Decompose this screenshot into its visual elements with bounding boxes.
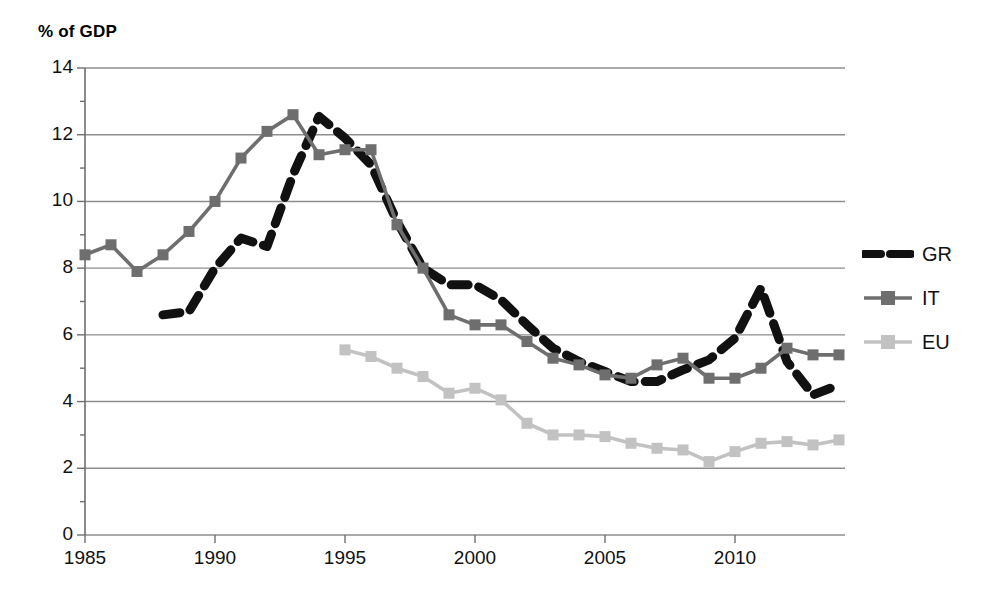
legend-label-gr: GR <box>922 244 952 264</box>
x-tick-label-2005: 2005 <box>560 547 650 569</box>
y-tick-label-8: 8 <box>27 256 73 278</box>
legend-swatch-it <box>862 287 914 309</box>
x-tick-label-2010: 2010 <box>690 547 780 569</box>
x-tick-label-1990: 1990 <box>170 547 260 569</box>
chart-container: % of GDP 02468101214 1985199019952000200… <box>0 0 995 603</box>
y-tick-label-6: 6 <box>27 323 73 345</box>
chart-title: % of GDP <box>38 22 117 42</box>
y-tick-label-0: 0 <box>27 523 73 545</box>
x-tick-label-1995: 1995 <box>300 547 390 569</box>
chart-legend: GR IT EU <box>862 232 992 364</box>
legend-label-eu: EU <box>922 332 950 352</box>
legend-label-it: IT <box>922 288 940 308</box>
y-tick-label-4: 4 <box>27 390 73 412</box>
x-tick-label-1985: 1985 <box>40 547 130 569</box>
axis-lines <box>77 68 735 543</box>
chart-plot-area <box>0 0 995 603</box>
y-tick-label-14: 14 <box>27 56 73 78</box>
y-tick-label-12: 12 <box>27 123 73 145</box>
legend-item-eu[interactable]: EU <box>862 320 992 364</box>
series-layer <box>80 109 845 467</box>
y-tick-label-10: 10 <box>27 189 73 211</box>
legend-item-it[interactable]: IT <box>862 276 992 320</box>
legend-item-gr[interactable]: GR <box>862 232 992 276</box>
legend-swatch-eu <box>862 331 914 353</box>
y-tick-label-2: 2 <box>27 456 73 478</box>
legend-swatch-gr <box>862 243 914 265</box>
x-tick-label-2000: 2000 <box>430 547 520 569</box>
